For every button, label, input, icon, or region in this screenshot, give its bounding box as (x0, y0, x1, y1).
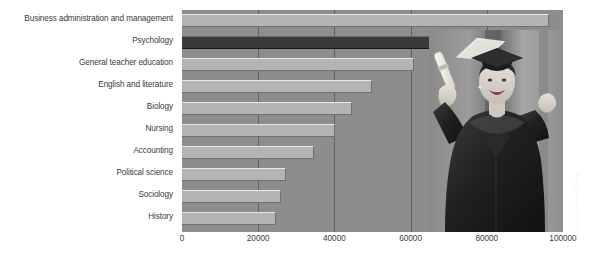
bar-chart-figure: Business administration and management P… (0, 0, 598, 266)
bar (182, 14, 549, 27)
photo-credit-text: © Jim Cummins/Corbis (574, 174, 580, 237)
photo-credit: © Jim Cummins/Corbis (566, 145, 578, 237)
x-axis-tick-label: 40000 (323, 234, 346, 243)
y-axis-label: Nursing (0, 124, 173, 134)
y-axis-label: History (0, 212, 173, 222)
y-axis-label: General teacher education (0, 58, 173, 68)
bar (182, 102, 352, 115)
y-axis-labels: Business administration and management P… (0, 10, 178, 232)
y-axis-label: Business administration and management (0, 14, 173, 24)
x-axis-tick-label: 0 (180, 234, 185, 243)
bar-row (182, 10, 563, 32)
bar (182, 80, 372, 93)
x-axis-tick-label: 20000 (247, 234, 270, 243)
bar (182, 146, 314, 159)
bar (182, 36, 464, 49)
y-axis-label: English and literature (0, 80, 173, 90)
bar (182, 190, 281, 203)
bar (182, 168, 286, 181)
y-axis-label: Sociology (0, 190, 173, 200)
bar (182, 124, 335, 137)
x-axis-tick-label: 60000 (399, 234, 422, 243)
plot-area (182, 10, 563, 232)
x-axis: 0 20000 40000 60000 80000 100000 (182, 232, 563, 252)
y-axis-label: Psychology (0, 36, 173, 46)
x-axis-tick-label: 80000 (475, 234, 498, 243)
bar (182, 212, 276, 225)
graduate-celebrating-photo (429, 30, 563, 232)
y-axis-label: Accounting (0, 146, 173, 156)
bar (182, 58, 414, 71)
y-axis-label: Biology (0, 102, 173, 112)
y-axis-label: Political science (0, 168, 173, 178)
